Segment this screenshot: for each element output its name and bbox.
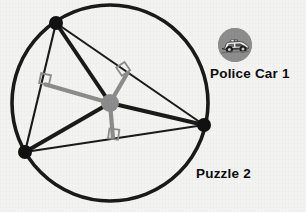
police-car-label: Police Car 1	[210, 66, 290, 81]
vertex-a	[49, 16, 63, 30]
circumcenter-point	[101, 94, 119, 112]
vertex-c	[197, 118, 211, 132]
radius-to-c	[110, 103, 204, 125]
diagram-canvas: Police Car 1 Puzzle 2	[0, 0, 306, 212]
police-car-avatar	[218, 28, 252, 62]
vertex-b	[18, 145, 32, 159]
police-car-icon	[218, 28, 252, 62]
geometry-figure	[0, 0, 306, 212]
puzzle-label: Puzzle 2	[196, 166, 251, 181]
